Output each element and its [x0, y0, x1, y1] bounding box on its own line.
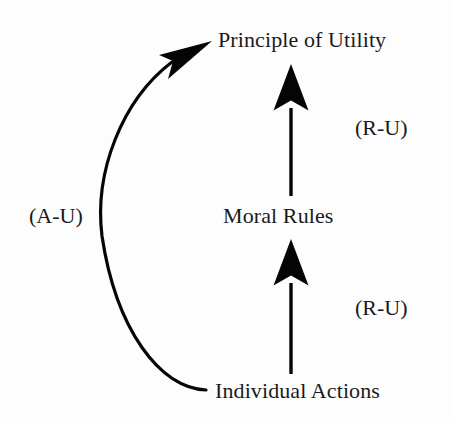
arrow-moral-to-principle	[274, 64, 309, 196]
edge-label-act-utilitarianism: (A-U)	[29, 205, 83, 227]
node-label-individual-actions: Individual Actions	[215, 380, 380, 402]
arrow-individual-to-principle-curved	[101, 41, 212, 390]
arrow-head	[274, 64, 309, 111]
curve-shaft	[101, 62, 206, 390]
edge-label-rule-utilitarianism-upper: (R-U)	[355, 117, 408, 139]
arrow-individual-to-moral	[274, 239, 309, 374]
diagram-canvas: Principle of Utility Moral Rules Individ…	[0, 0, 454, 423]
curve-arrow-head	[159, 41, 212, 79]
node-label-principle-of-utility: Principle of Utility	[218, 29, 386, 51]
arrow-head	[274, 239, 309, 286]
edge-label-rule-utilitarianism-lower: (R-U)	[355, 297, 408, 319]
node-label-moral-rules: Moral Rules	[223, 205, 333, 227]
